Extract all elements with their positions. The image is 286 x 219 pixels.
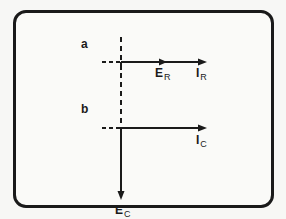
er-label-sub: R [164, 72, 171, 82]
panel-a-label: a [81, 38, 88, 50]
ec-arrow-icon [118, 191, 125, 200]
phasor-diagram [0, 0, 286, 219]
ir-label-main: I [196, 66, 199, 80]
ic-arrow-icon [198, 125, 207, 132]
ec-label-main: E [115, 203, 123, 217]
er-label: ER [155, 67, 171, 79]
ec-label-sub: C [124, 209, 131, 219]
ic-label: IC [196, 134, 207, 146]
er-label-main: E [155, 66, 163, 80]
er-arrow-icon [159, 59, 167, 66]
panel-b-label: b [81, 103, 88, 115]
ir-arrow-icon [198, 59, 207, 66]
ic-label-main: I [196, 133, 199, 147]
ir-label: IR [196, 67, 207, 79]
ic-label-sub: C [200, 139, 207, 149]
ec-label: EC [115, 204, 131, 216]
ir-label-sub: R [200, 72, 207, 82]
